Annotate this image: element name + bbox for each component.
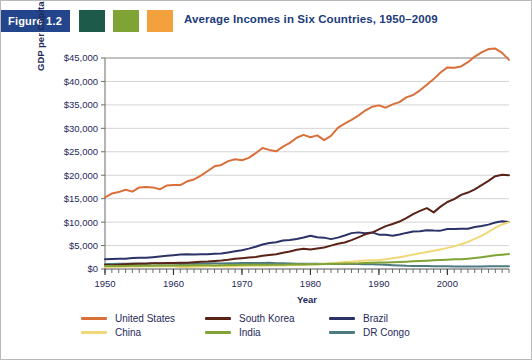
- y-tick-label: $0: [87, 263, 98, 274]
- legend-swatch-line: [81, 331, 107, 334]
- legend-item-brazil: Brazil: [329, 313, 453, 324]
- series-line-south-korea: [105, 175, 509, 265]
- y-tick-label: $10,000: [64, 217, 98, 228]
- y-tick-label: $5,000: [69, 240, 98, 251]
- series-line-brazil: [105, 221, 509, 259]
- x-tick-label: 1990: [368, 278, 389, 289]
- legend-label: United States: [115, 313, 175, 324]
- x-axis-title: Year: [297, 294, 317, 305]
- chart-plot-area: $0$5,000$10,000$15,000$20,000$25,000$30,…: [1, 45, 532, 307]
- x-tick-label: 1980: [300, 278, 321, 289]
- legend-label: China: [115, 327, 141, 338]
- legend-swatch-line: [205, 317, 231, 320]
- decorative-swatch-orange: [147, 10, 173, 32]
- chart-title: Average Incomes in Six Countries, 1950–2…: [184, 13, 438, 25]
- legend-row-2: China India DR Congo: [1, 327, 532, 338]
- x-tick-label: 1960: [163, 278, 184, 289]
- y-tick-label: $15,000: [64, 193, 98, 204]
- legend-row-1: United States South Korea Brazil: [1, 313, 532, 324]
- legend-item-south-korea: South Korea: [205, 313, 329, 324]
- legend-item-india: India: [205, 327, 329, 338]
- y-tick-label: $35,000: [64, 99, 98, 110]
- legend-item-dr-congo: DR Congo: [329, 327, 453, 338]
- legend-item-united-states: United States: [81, 313, 205, 324]
- decorative-swatch-teal: [79, 10, 105, 32]
- y-tick-label: $20,000: [64, 170, 98, 181]
- legend-label: South Korea: [239, 313, 295, 324]
- y-tick-label: $45,000: [64, 52, 98, 63]
- figure-header: Figure 1.2 Average Incomes in Six Countr…: [1, 10, 531, 32]
- legend-label: DR Congo: [363, 327, 410, 338]
- x-tick-label: 1970: [231, 278, 252, 289]
- decorative-swatch-green: [113, 10, 139, 32]
- chart-legend: United States South Korea Brazil China I…: [1, 313, 532, 341]
- y-tick-label: $40,000: [64, 76, 98, 87]
- legend-label: Brazil: [363, 313, 388, 324]
- legend-item-china: China: [81, 327, 205, 338]
- x-tick-label: 2000: [437, 278, 458, 289]
- y-tick-label: $30,000: [64, 123, 98, 134]
- legend-swatch-line: [329, 331, 355, 334]
- legend-swatch-line: [81, 317, 107, 320]
- y-tick-label: $25,000: [64, 146, 98, 157]
- legend-swatch-line: [205, 331, 231, 334]
- x-tick-label: 1950: [94, 278, 115, 289]
- figure-panel: Figure 1.2 Average Incomes in Six Countr…: [0, 0, 532, 360]
- line-chart: $0$5,000$10,000$15,000$20,000$25,000$30,…: [1, 45, 532, 307]
- legend-swatch-line: [329, 317, 355, 320]
- legend-label: India: [239, 327, 261, 338]
